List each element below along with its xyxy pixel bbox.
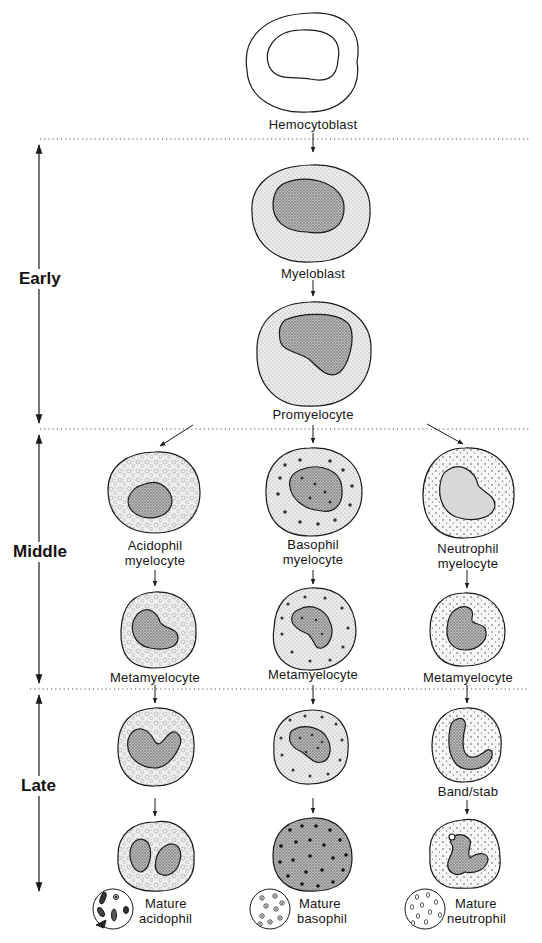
label-neutrophil-myelocyte-line2: myelocyte — [408, 556, 528, 571]
label-promyelocyte: Promyelocyte — [253, 407, 373, 422]
label-basophil-metamyelocyte: Metamyelocyte — [253, 667, 373, 682]
label-mature-neutrophil-line2: neutrophil — [447, 911, 506, 926]
basophil-myelocyte-cell — [266, 448, 362, 536]
label-mature-acidophil-line2: acidophil — [139, 911, 192, 926]
label-acidophil-myelocyte-line2: myelocyte — [95, 553, 215, 568]
acidophil-myelocyte-cell — [108, 452, 200, 533]
label-basophil-myelocyte: Basophil myelocyte — [253, 537, 373, 567]
label-acidophil-myelocyte: Acidophil myelocyte — [95, 538, 215, 568]
label-neutrophil-myelocyte-line1: Neutrophil — [408, 541, 528, 556]
neutrophil-metamyelocyte-cell — [430, 593, 505, 666]
neutrophil-myelocyte-cell — [423, 448, 514, 538]
label-acidophil-myelocyte-line1: Acidophil — [95, 538, 215, 553]
label-band-stab: Band/stab — [408, 784, 528, 799]
label-neutrophil-metamyelocyte: Metamyelocyte — [408, 670, 528, 685]
label-mature-neutrophil-line1: Mature — [447, 896, 506, 911]
label-mature-neutrophil: Mature neutrophil — [447, 896, 506, 926]
label-myeloblast: Myeloblast — [253, 266, 373, 281]
acidophil-band-cell — [118, 708, 194, 786]
neutrophil-band-cell — [432, 708, 501, 782]
mature-acidophil-cell — [118, 821, 194, 891]
acidophil-metamyelocyte-cell — [121, 592, 196, 668]
granulopoiesis-diagram — [0, 0, 542, 943]
stage-label-late: Late — [20, 776, 57, 796]
stage-label-middle: Middle — [12, 542, 68, 562]
mature-basophil-cell — [273, 818, 352, 891]
acidophil-granule-inset — [93, 889, 133, 929]
basophil-granule-inset — [250, 889, 290, 929]
myeloblast-cell — [252, 165, 370, 262]
label-mature-acidophil-line1: Mature — [139, 896, 192, 911]
label-neutrophil-myelocyte: Neutrophil myelocyte — [408, 541, 528, 571]
hemocytoblast-cell — [246, 13, 358, 112]
label-acidophil-metamyelocyte: Metamyelocyte — [95, 670, 215, 685]
basophil-metamyelocyte-cell — [273, 588, 356, 670]
stage-label-early: Early — [18, 269, 62, 289]
label-mature-basophil-line1: Mature — [297, 896, 347, 911]
neutrophil-granule-inset — [405, 889, 445, 929]
label-mature-basophil: Mature basophil — [297, 896, 347, 926]
basophil-band-cell — [274, 710, 348, 784]
mature-neutrophil-cell — [430, 819, 500, 888]
label-basophil-myelocyte-line1: Basophil — [253, 537, 373, 552]
label-hemocytoblast: Hemocytoblast — [253, 117, 373, 132]
promyelocyte-cell — [257, 302, 371, 406]
label-mature-basophil-line2: basophil — [297, 911, 347, 926]
label-mature-acidophil: Mature acidophil — [139, 896, 192, 926]
label-basophil-myelocyte-line2: myelocyte — [253, 552, 373, 567]
